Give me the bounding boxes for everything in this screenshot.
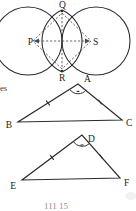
label-B: B xyxy=(6,120,12,130)
point-Q-dot xyxy=(61,10,64,13)
tick-side-AC xyxy=(98,100,101,104)
label-D: D xyxy=(88,134,95,144)
two-circles-group: Q P S R xyxy=(0,0,130,83)
label-A: A xyxy=(84,74,91,84)
label-E: E xyxy=(10,181,16,191)
tick-side-DF xyxy=(99,154,102,159)
margin-text-fragment: es xyxy=(0,83,7,93)
geometry-figure: Q P S R A B C xyxy=(0,0,136,211)
caption-fragment: 111 15 xyxy=(44,201,69,211)
label-F: F xyxy=(124,178,129,188)
dashed-segment-RP xyxy=(33,41,62,69)
label-Q: Q xyxy=(59,0,66,10)
triangle-DEF-outline xyxy=(22,135,120,180)
triangle-ABC-group: A B C xyxy=(6,74,133,130)
triangle-DEF-group: D E F xyxy=(10,134,129,191)
dashed-segment-PQ xyxy=(33,13,62,41)
label-C: C xyxy=(126,118,132,128)
figure-page: Q P S R A B C xyxy=(0,0,136,211)
tick-side-AB xyxy=(46,101,50,106)
dashed-segment-QS xyxy=(62,13,91,41)
point-R-dot xyxy=(61,70,64,73)
scan-smudge xyxy=(125,192,136,200)
label-P: P xyxy=(28,37,33,47)
label-S: S xyxy=(93,37,98,47)
dashed-segment-SR xyxy=(62,41,91,69)
label-R: R xyxy=(59,73,66,83)
